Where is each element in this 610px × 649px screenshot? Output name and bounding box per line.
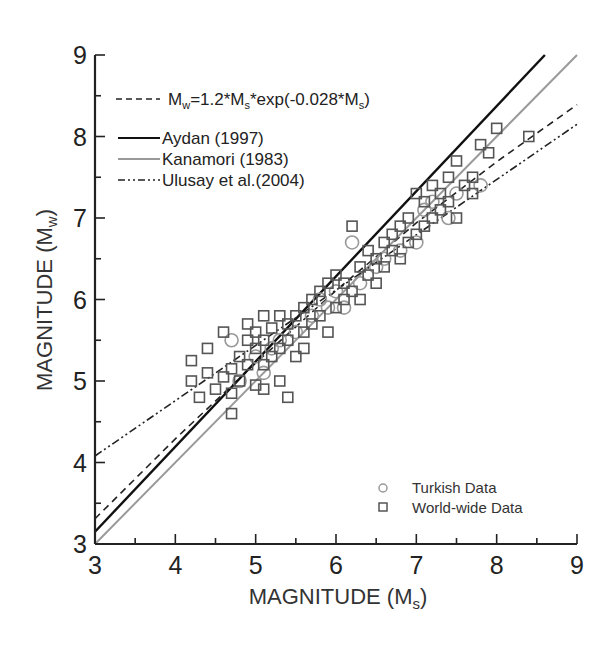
legend-entry-ulusay: Ulusay et al.(2004)	[118, 171, 305, 190]
legend-label-worldwide: World-wide Data	[412, 499, 523, 516]
y-tick-label: 8	[73, 123, 87, 151]
turkish-data-point	[330, 285, 343, 298]
x-tick-label: 8	[490, 551, 504, 579]
legend-label-kanamori: Kanamori (1983)	[162, 150, 289, 169]
y-tick-label: 7	[73, 204, 87, 232]
world-data-point	[186, 356, 196, 366]
world-data-point	[194, 392, 204, 402]
x-tick-label: 6	[329, 551, 343, 579]
world-data-point	[186, 376, 196, 386]
legend-label-turkish: Turkish Data	[412, 479, 497, 496]
world-data-point	[283, 392, 293, 402]
world-data-point	[452, 156, 462, 166]
world-data-point	[202, 343, 212, 353]
y-tick-label: 9	[73, 41, 87, 69]
turkish-data-point	[346, 236, 359, 249]
y-axis-title: MAGNITUDE (Mw)	[32, 209, 60, 391]
legend-markers: Turkish Data World-wide Data	[379, 479, 523, 516]
world-data-point	[267, 323, 277, 333]
turkish-data-point	[450, 187, 463, 200]
legend-label-aydan: Aydan (1997)	[162, 129, 264, 148]
world-data-point	[323, 327, 333, 337]
x-tick-label: 4	[168, 551, 182, 579]
turkish-data-point	[354, 277, 367, 290]
scatter-chart: 34567893456789 MAGNITUDE (Ms) MAGNITUDE …	[0, 0, 610, 649]
legend-lines: Mw=1.2*Ms*exp(-0.028*Ms) Aydan (1997) Ka…	[116, 90, 370, 190]
world-data-point	[259, 311, 269, 321]
x-axis-title: MAGNITUDE (Ms)	[249, 584, 428, 612]
circle-marker-icon	[379, 484, 387, 492]
y-tick-label: 4	[73, 449, 87, 477]
square-marker-icon	[379, 503, 387, 511]
legend-entry-aydan: Aydan (1997)	[118, 129, 264, 148]
legend-entry-empirical: Mw=1.2*Ms*exp(-0.028*Ms)	[116, 90, 370, 111]
world-data-point	[347, 221, 357, 231]
legend-entry-kanamori: Kanamori (1983)	[118, 150, 289, 169]
y-tick-label: 6	[73, 286, 87, 314]
x-tick-label: 7	[409, 551, 423, 579]
y-tick-label: 3	[73, 530, 87, 558]
legend-label-empirical: Mw=1.2*Ms*exp(-0.028*Ms)	[168, 90, 370, 111]
world-data-point	[211, 384, 221, 394]
world-data-point	[275, 376, 285, 386]
legend-label-ulusay: Ulusay et al.(2004)	[162, 171, 305, 190]
x-tick-label: 5	[249, 551, 263, 579]
world-data-point	[202, 368, 212, 378]
turkish-data-point	[225, 334, 238, 347]
x-tick-label: 3	[88, 551, 102, 579]
y-tick-label: 5	[73, 367, 87, 395]
x-tick-label: 9	[570, 551, 584, 579]
